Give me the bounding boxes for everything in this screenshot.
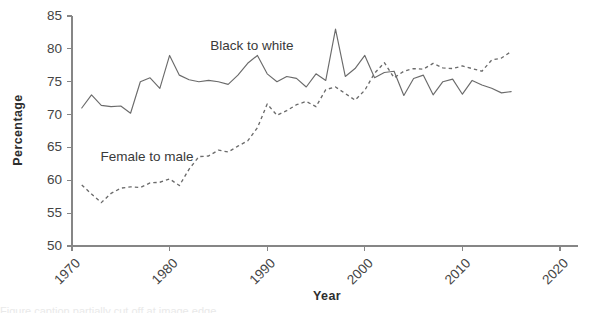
x-axis-title: Year	[313, 289, 341, 303]
line-chart-canvas: 5055606570758085 19701980199020002010202…	[0, 0, 591, 313]
y-tick-label: 75	[47, 74, 62, 89]
x-tick-label: 2000	[344, 256, 376, 288]
x-axis-ticks: 197019801990200020102020	[51, 246, 571, 287]
series-annotation-female-to-male: Female to male	[100, 149, 193, 164]
y-tick-label: 50	[47, 238, 62, 253]
y-tick-label: 70	[47, 107, 62, 122]
series-line-female-to-male	[82, 51, 511, 202]
axes	[72, 16, 578, 246]
chart-figure: 5055606570758085 19701980199020002010202…	[0, 0, 591, 313]
x-tick-label: 1980	[149, 256, 181, 288]
y-tick-label: 60	[47, 172, 62, 187]
x-tick-label: 2020	[539, 256, 571, 288]
series-line-black-to-white	[82, 29, 511, 113]
cut-off-caption: Figure caption partially cut off at imag…	[0, 306, 591, 313]
x-tick-label: 1970	[51, 256, 83, 288]
y-tick-label: 65	[47, 139, 62, 154]
x-tick-label: 1990	[246, 256, 278, 288]
y-axis-title: Percentage	[11, 94, 25, 165]
x-tick-label: 2010	[442, 256, 474, 288]
y-axis-ticks: 5055606570758085	[47, 8, 72, 253]
series-annotation-black-to-white: Black to white	[210, 38, 293, 53]
y-tick-label: 85	[47, 8, 62, 23]
y-tick-label: 55	[47, 205, 62, 220]
y-tick-label: 80	[47, 41, 62, 56]
